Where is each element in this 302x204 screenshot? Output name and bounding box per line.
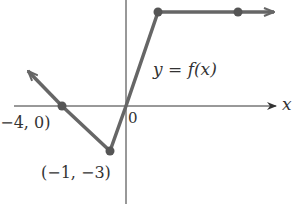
graph-left-ray (28, 71, 62, 106)
graph-line (62, 12, 274, 151)
point-top-right (234, 8, 243, 17)
point-neg1-neg3 (106, 147, 115, 156)
point-top-left (154, 8, 163, 17)
x-axis-label: x (282, 94, 292, 114)
point-neg4-0 (58, 102, 67, 111)
point-label-neg4-0: (−4, 0) (0, 113, 50, 132)
point-label-neg1-neg3: (−1, −3) (41, 163, 111, 182)
function-label: y = f(x) (152, 59, 217, 79)
function-graph: y = f(x) x 0 (−4, 0) (−1, −3) (0, 0, 302, 204)
origin-label: 0 (128, 109, 138, 127)
